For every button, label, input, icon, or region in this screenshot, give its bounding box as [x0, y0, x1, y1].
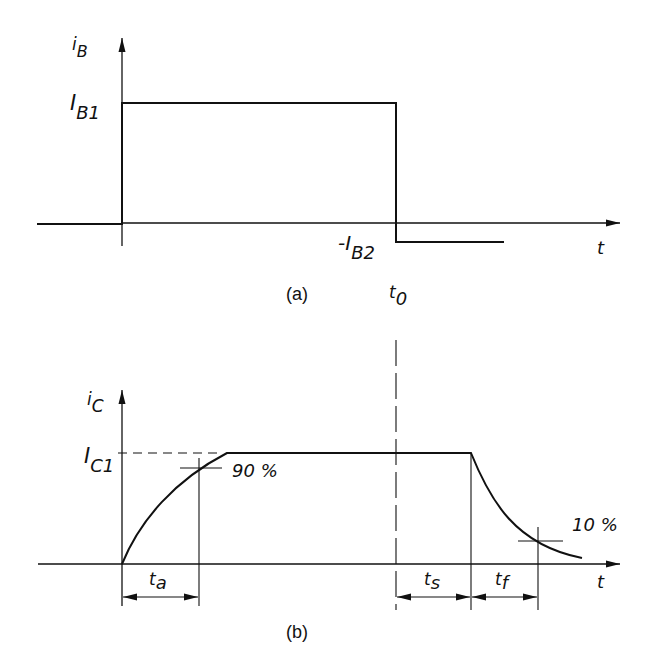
- x-axis-label-a: t: [597, 237, 605, 258]
- fall-10-label: 10 %: [572, 514, 618, 535]
- rise-90-label: 90 %: [232, 460, 278, 481]
- caption-b: (b): [286, 622, 308, 642]
- caption-a: (a): [286, 284, 308, 304]
- interval-s-label: ts: [424, 569, 440, 593]
- figure-b-collector-current: iC IC1 90 % 10 % t ta ts tf (b): [38, 340, 620, 642]
- level-high-label: IB1: [70, 91, 100, 123]
- switch-time-label: t0: [389, 282, 407, 309]
- collector-current-waveform: [122, 453, 582, 564]
- x-axis-label-b: t: [597, 571, 605, 592]
- y-axis-label-b: iC: [87, 389, 104, 416]
- interval-f-label: tf: [495, 569, 511, 593]
- base-current-waveform: [37, 103, 504, 242]
- figure-a-base-current: iB IB1 -IB2 t t0 (a): [37, 34, 620, 309]
- y-axis-label-a: iB: [72, 34, 88, 61]
- interval-a-label: ta: [149, 569, 167, 593]
- switching-waveform-diagram: iB IB1 -IB2 t t0 (a) iC IC1 90 % 10 % t: [0, 0, 657, 661]
- level-low-label: -IB2: [338, 231, 375, 263]
- ic1-level-label: IC1: [84, 444, 114, 476]
